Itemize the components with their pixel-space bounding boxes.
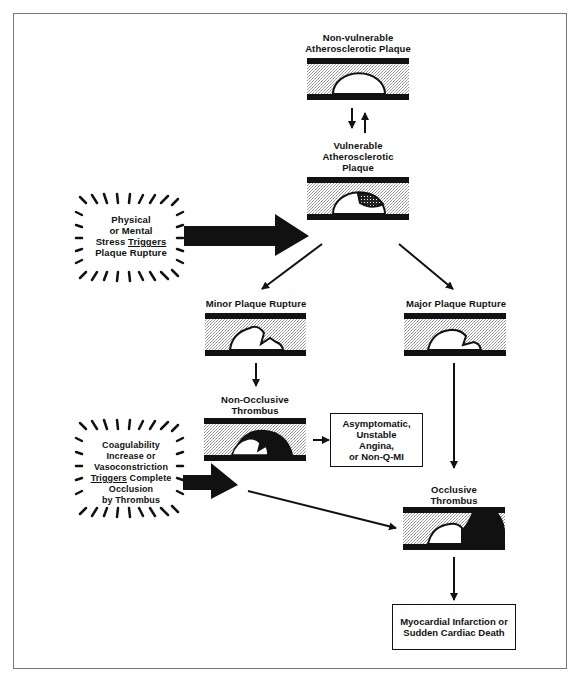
- arrow-coag-to-occlusive: [248, 491, 396, 528]
- box-outcome: Myocardial Infarction or Sudden Cardiac …: [392, 604, 516, 650]
- label-line: Increase or: [84, 451, 178, 462]
- label-line: Vasoconstriction: [84, 462, 178, 473]
- arrow-to-major: [399, 244, 453, 289]
- label-text: Complete: [127, 473, 171, 483]
- vessel-non-vulnerable: [307, 58, 409, 100]
- label-minor-rupture: Minor Plaque Rupture: [195, 298, 317, 309]
- label-line: Stress Triggers: [88, 236, 174, 247]
- label-stress-trigger: Physical or Mental Stress Triggers Plaqu…: [88, 214, 174, 258]
- arrow-to-minor: [262, 244, 322, 289]
- label-coag-trigger: Coagulability Increase or Vasoconstricti…: [84, 440, 178, 506]
- label-line: by Thrombus: [84, 495, 178, 506]
- label-line: Thrombus: [404, 495, 504, 506]
- label-line: Coagulability: [84, 440, 178, 451]
- label-line: Atherosclerotic Plaque: [298, 43, 418, 54]
- diagram-canvas: [0, 0, 579, 678]
- label-line: Triggers Complete: [84, 473, 178, 484]
- vessel-vulnerable: [307, 177, 409, 220]
- label-vulnerable: Vulnerable Atherosclerotic Plaque: [298, 140, 418, 173]
- vessel-non-occlusive: [204, 418, 306, 461]
- label-major-rupture: Major Plaque Rupture: [395, 298, 517, 309]
- label-line: Non-Occlusive: [205, 394, 305, 405]
- thick-arrow-coag: [183, 463, 238, 499]
- label-line: Physical: [88, 214, 174, 225]
- label-text-underlined: Triggers: [128, 236, 166, 247]
- label-line: or Non-Q-MI: [342, 451, 410, 462]
- vessel-minor-rupture: [205, 313, 306, 356]
- label-text-underlined: Triggers: [91, 473, 127, 483]
- vessel-major-rupture: [404, 313, 506, 356]
- label-line: Thrombus: [205, 405, 305, 416]
- thick-arrow-stress: [184, 214, 309, 256]
- label-line: Angina,: [342, 440, 410, 451]
- label-occlusive: Occlusive Thrombus: [404, 484, 504, 506]
- label-line: or Mental: [88, 225, 174, 236]
- box-asymptomatic: Asymptomatic, Unstable Angina, or Non-Q-…: [330, 413, 423, 467]
- label-non-vulnerable: Non-vulnerable Atherosclerotic Plaque: [298, 32, 418, 54]
- bidirectional-arrows: [352, 108, 365, 133]
- label-line: Asymptomatic,: [342, 418, 410, 429]
- label-non-occlusive: Non-Occlusive Thrombus: [205, 394, 305, 416]
- label-line: Myocardial Infarction or: [400, 616, 508, 627]
- vessel-occlusive: [403, 507, 505, 550]
- label-line: Occlusive: [404, 484, 504, 495]
- label-line: Plaque Rupture: [88, 247, 174, 258]
- label-line: Plaque: [298, 162, 418, 173]
- label-line: Sudden Cardiac Death: [400, 627, 508, 638]
- label-text: Stress: [96, 236, 128, 247]
- label-line: Unstable: [342, 429, 410, 440]
- label-line: Non-vulnerable: [298, 32, 418, 43]
- label-line: Vulnerable: [298, 140, 418, 151]
- label-line: Occlusion: [84, 484, 178, 495]
- label-line: Atherosclerotic: [298, 151, 418, 162]
